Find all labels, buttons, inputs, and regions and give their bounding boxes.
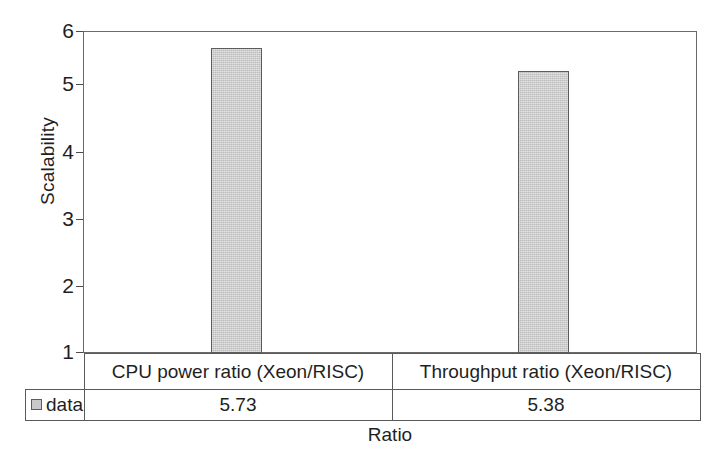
bar-chart-figure: Scalability 6 5 4 3 2 1 CPU power ratio … [0,0,717,459]
y-tick-mark-3 [76,219,83,220]
legend-swatch-icon [31,399,42,410]
table-value-throughput-ratio: 5.38 [392,390,700,421]
y-tick-label-5: 5 [40,73,74,94]
bar-cpu-power-ratio [211,48,262,353]
table-header-cpu-power-ratio: CPU power ratio (Xeon/RISC) [84,354,392,390]
table-row-categories: CPU power ratio (Xeon/RISC) Throughput r… [26,354,701,390]
table-row-values: data 5.73 5.38 [26,390,701,421]
x-axis-title: Ratio [83,424,697,446]
legend-label: data [46,394,83,416]
y-tick-mark-4 [76,152,83,153]
y-tick-label-2: 2 [40,275,74,296]
y-tick-mark-5 [76,84,83,85]
bar-throughput-ratio [518,71,569,353]
legend-entry-data: data [26,390,85,421]
plot-area [83,31,697,353]
y-tick-label-3: 3 [40,208,74,229]
data-table: CPU power ratio (Xeon/RISC) Throughput r… [25,353,697,418]
y-tick-label-6: 6 [40,20,74,41]
table-corner-blank [26,354,85,390]
table-value-cpu-power-ratio: 5.73 [84,390,392,421]
y-tick-label-4: 4 [40,141,74,162]
table-header-throughput-ratio: Throughput ratio (Xeon/RISC) [392,354,700,390]
y-tick-mark-6 [76,31,83,32]
y-tick-mark-2 [76,286,83,287]
